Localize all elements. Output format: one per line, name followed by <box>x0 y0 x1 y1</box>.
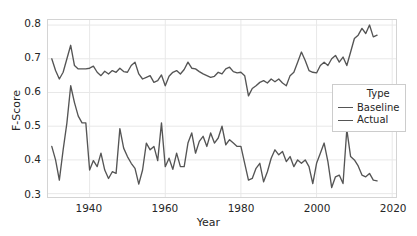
x-tick-label: 1940 <box>67 203 111 214</box>
series-line-actual <box>52 86 377 188</box>
x-tick-label: 1980 <box>219 203 263 214</box>
x-axis-title: Year <box>0 216 417 229</box>
y-tick-label: 0.7 <box>3 52 41 63</box>
legend-item-label: Actual <box>357 114 388 127</box>
y-axis-title: F-Score <box>10 71 23 151</box>
legend-title: Type <box>338 88 399 102</box>
x-tick-label: 2000 <box>295 203 339 214</box>
legend-item-label: Baseline <box>357 102 399 115</box>
legend-line-swatch <box>338 120 353 121</box>
x-tick-label: 1960 <box>143 203 187 214</box>
legend[interactable]: Type BaselineActual <box>332 84 406 132</box>
legend-entries: BaselineActual <box>338 102 399 127</box>
y-tick-label: 0.4 <box>3 154 41 165</box>
legend-item-actual[interactable]: Actual <box>338 114 399 127</box>
y-tick-label: 0.3 <box>3 189 41 200</box>
y-tick-label: 0.8 <box>3 18 41 29</box>
legend-line-swatch <box>338 107 353 108</box>
legend-item-baseline[interactable]: Baseline <box>338 102 399 115</box>
chart-figure: 0.30.40.50.60.70.8 F-Score 1940196019802… <box>0 0 417 236</box>
series-line-baseline <box>52 25 377 96</box>
x-tick-label: 2020 <box>371 203 415 214</box>
